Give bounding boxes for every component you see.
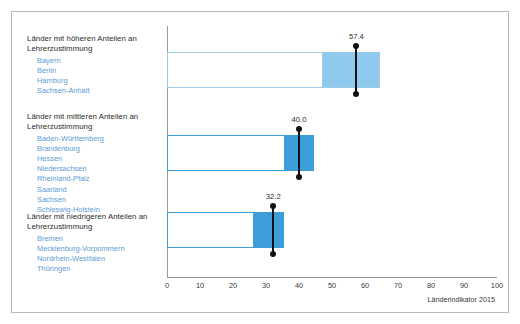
value-marker-dot-top [270, 203, 276, 209]
list-item: Nordrhein-Westfalen [27, 254, 167, 264]
bar-group-2: 40.0 [167, 135, 497, 171]
plot-area: 010203040506070809010057.440.032.2 [167, 22, 503, 304]
chart-figure: Länder mit höheren Anteilen anLehrerzust… [11, 11, 509, 313]
group-title-line2: Lehrerzustimmung [27, 44, 167, 54]
list-item: Brandenburg [27, 144, 167, 154]
category-group-2: Länder mit mittleren Anteilen anLehrerzu… [27, 112, 167, 215]
x-axis-tick-label: 0 [165, 281, 169, 290]
x-axis-tick-label: 70 [394, 281, 402, 290]
value-marker-line [298, 129, 300, 177]
bar-value-label: 32.2 [266, 192, 281, 201]
bar-value-label: 57.4 [349, 32, 364, 41]
value-marker-dot-bottom [353, 91, 359, 97]
x-axis-tick-label: 30 [262, 281, 270, 290]
x-axis-tick-label: 10 [196, 281, 204, 290]
value-marker-dot-top [353, 43, 359, 49]
list-item: Hessen [27, 154, 167, 164]
list-item: Bayern [27, 56, 167, 66]
bar-fill-segment [322, 52, 380, 88]
x-axis-tick-label: 50 [328, 281, 336, 290]
bar-group-3: 32.2 [167, 212, 497, 248]
x-axis-tick-label: 90 [460, 281, 468, 290]
category-group-1: Länder mit höheren Anteilen anLehrerzust… [27, 34, 167, 96]
x-axis-tick-label: 40 [295, 281, 303, 290]
list-item: Hamburg [27, 76, 167, 86]
value-marker-dot-bottom [270, 251, 276, 257]
category-group-3: Länder mit niedrigeren Anteilen anLehrer… [27, 212, 167, 274]
group-title-line1: Länder mit niedrigeren Anteilen an [27, 212, 167, 222]
list-item: Baden-Württemberg [27, 134, 167, 144]
list-item: Rheinland-Pfalz [27, 174, 167, 184]
group-title-line2: Lehrerzustimmung [27, 122, 167, 132]
state-list: Baden-WürttembergBrandenburgHessenNieder… [27, 134, 167, 216]
x-axis-tick-label: 100 [491, 281, 503, 290]
category-label-column: Länder mit höheren Anteilen anLehrerzust… [27, 22, 167, 304]
list-item: Sachsen [27, 195, 167, 205]
list-item: Mecklenburg-Vorpommern [27, 244, 167, 254]
value-marker-line [355, 46, 357, 94]
value-marker-line [272, 206, 274, 254]
value-marker-dot-top [296, 126, 302, 132]
x-axis-line [167, 277, 497, 278]
value-marker-dot-bottom [296, 174, 302, 180]
group-title-line1: Länder mit mittleren Anteilen an [27, 112, 167, 122]
list-item: Niedersachsen [27, 164, 167, 174]
bar-fill-segment [253, 212, 284, 248]
state-list: BayernBerlinHamburgSachsen-Anhalt [27, 56, 167, 97]
bar-group-1: 57.4 [167, 52, 497, 88]
group-title-line1: Länder mit höheren Anteilen an [27, 34, 167, 44]
list-item: Bremen [27, 234, 167, 244]
source-note: Länderindikator 2015 [427, 295, 495, 304]
bar-value-label: 40.0 [292, 115, 307, 124]
x-axis-tick-label: 60 [361, 281, 369, 290]
list-item: Saarland [27, 185, 167, 195]
group-title-line2: Lehrerzustimmung [27, 222, 167, 232]
state-list: BremenMecklenburg-VorpommernNordrhein-We… [27, 234, 167, 275]
list-item: Thüringen [27, 264, 167, 274]
x-axis-tick-label: 20 [229, 281, 237, 290]
list-item: Berlin [27, 66, 167, 76]
x-axis-tick-label: 80 [427, 281, 435, 290]
list-item: Sachsen-Anhalt [27, 86, 167, 96]
